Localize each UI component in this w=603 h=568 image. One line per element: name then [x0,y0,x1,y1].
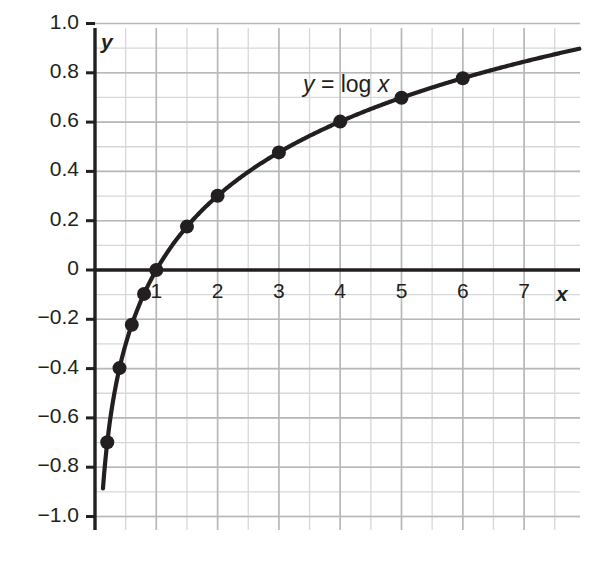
y-tick-label: 0.6 [0,108,79,132]
y-tick-label: 0.2 [0,207,79,231]
data-point [180,220,194,234]
y-tick-label: −0.2 [0,305,79,329]
x-axis-label: x [556,282,568,306]
x-tick-label: 6 [443,279,483,303]
y-tick-label: 0.8 [0,59,79,83]
annotation-equals-log: = log [315,71,378,97]
y-tick-label: −0.4 [0,355,79,379]
y-axis-label: y [101,30,113,54]
x-tick-label: 4 [320,279,360,303]
data-point [272,145,286,159]
y-tick-label: 1.0 [0,10,79,34]
curve-equation-annotation: y = log x [303,71,389,98]
x-tick-label: 7 [504,279,544,303]
data-point [113,361,127,375]
x-tick-label: 3 [259,279,299,303]
y-tick-label: 0.4 [0,157,79,181]
major-gridlines [95,24,580,531]
y-tick-label: −1.0 [0,503,79,527]
y-tick-label: 0 [0,256,79,280]
data-point [125,318,139,332]
data-point [333,115,347,129]
x-tick-label: 5 [382,279,422,303]
data-point [100,435,114,449]
y-tick-label: −0.6 [0,404,79,428]
x-tick-label: 2 [198,279,238,303]
annotation-x: x [378,71,390,97]
annotation-y: y [303,71,315,97]
y-tick-label: −0.8 [0,453,79,477]
data-point [149,263,163,277]
log-function-graph-figure: 1.00.80.60.40.20−0.2−0.4−0.6−0.8−1.0 123… [0,0,603,568]
data-point [211,189,225,203]
data-point [395,91,409,105]
x-tick-label: 1 [136,279,176,303]
data-point [456,71,470,85]
